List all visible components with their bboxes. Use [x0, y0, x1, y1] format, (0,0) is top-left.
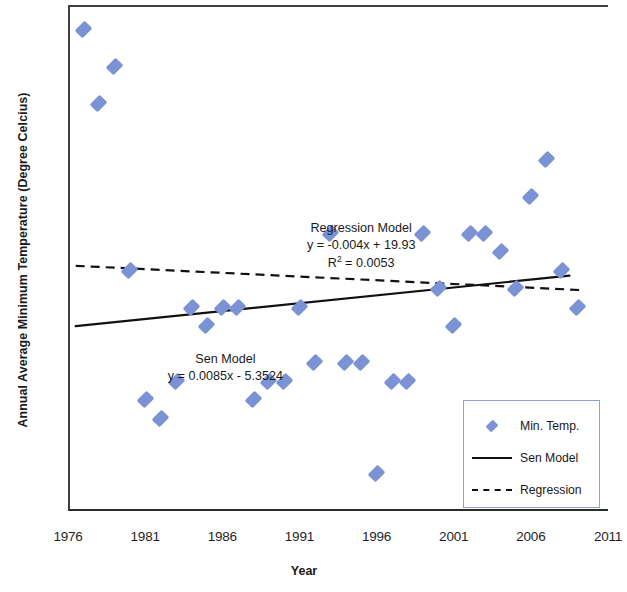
regression-annotation-equation: y = -0.004x + 19.93: [271, 237, 451, 254]
chart-legend: Min. Temp.Sen ModelRegression: [463, 400, 600, 508]
x-tick-label: 1981: [115, 529, 175, 544]
sen-annotation-equation: y = 0.0085x - 5.3524: [135, 368, 315, 385]
x-tick-label: 2006: [501, 529, 561, 544]
sen-model-line: [76, 276, 570, 326]
x-tick-label: 2011: [578, 529, 627, 544]
legend-item[interactable]: Regression: [464, 475, 601, 505]
regression-annotation: Regression Model y = -0.004x + 19.93 R2 …: [271, 220, 451, 273]
x-tick-label: 2001: [424, 529, 484, 544]
legend-dashed-line-icon: [472, 489, 512, 491]
x-tick-label: 1996: [347, 529, 407, 544]
legend-item-label: Min. Temp.: [520, 419, 579, 433]
legend-item-label: Regression: [520, 483, 582, 497]
regression-annotation-r2: R2 = 0.0053: [271, 254, 451, 273]
x-axis-title: Year: [0, 564, 608, 578]
sen-annotation-title: Sen Model: [135, 351, 315, 368]
regression-annotation-title: Regression Model: [271, 220, 451, 237]
legend-item[interactable]: Sen Model: [464, 443, 601, 473]
legend-diamond-icon: [486, 420, 499, 433]
legend-item-label: Sen Model: [520, 451, 578, 465]
legend-item[interactable]: Min. Temp.: [464, 411, 601, 441]
x-tick-label: 1991: [269, 529, 329, 544]
sen-annotation: Sen Model y = 0.0085x - 5.3524: [135, 351, 315, 386]
x-tick-label: 1986: [192, 529, 252, 544]
legend-solid-line-icon: [472, 457, 512, 459]
y-axis-title: Annual Average Minimum Temperature (Degr…: [16, 5, 30, 515]
x-tick-label: 1976: [38, 529, 98, 544]
